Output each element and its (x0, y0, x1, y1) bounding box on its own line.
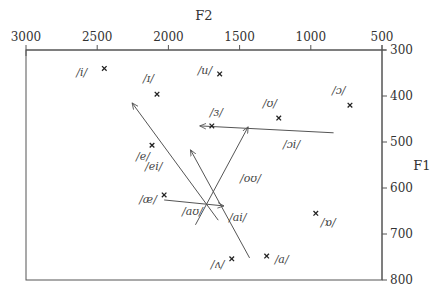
y-tick-label: 300 (390, 43, 413, 57)
vowel-label: /ɒ/ (320, 216, 337, 229)
diphthong-trajectories: /ei//ai//aʊ//oʊ//ɔi/ (132, 103, 333, 258)
y-tick-label: 700 (390, 227, 413, 241)
vowel-label: /i/ (75, 66, 88, 79)
x-tick-label: 1000 (296, 30, 327, 44)
x-tick-label: 2500 (82, 30, 113, 44)
y-tick-label: 400 (390, 89, 413, 103)
trajectory-arrow (200, 126, 334, 133)
y-tick-label: 500 (390, 135, 413, 149)
vowel-label: /a/ (274, 253, 290, 266)
vowel-u: /u/ (197, 64, 222, 77)
vowel-label: /ʌ/ (210, 258, 226, 271)
x-tick-label: 1500 (224, 30, 255, 44)
vowel-i: /i/ (75, 66, 106, 79)
vowel-ɜ: /ɜ/ (209, 106, 224, 128)
x-tick-label: 3000 (11, 30, 42, 44)
vowel-label: /ɜ/ (209, 106, 224, 119)
vowel-ɒ: /ɒ/ (313, 211, 336, 229)
x-axis-title: F2 (195, 8, 212, 23)
x-axis-f2: 30002500200015001000500 (11, 30, 394, 56)
y-axis-f1: 300400500600700800 (382, 43, 413, 287)
vowel-label: /ɔ/ (331, 84, 347, 97)
vowel-label: /ɪ/ (142, 72, 155, 85)
vowel-æ: /æ/ (138, 193, 166, 206)
x-tick-label: 500 (371, 30, 394, 44)
plot-frame (26, 50, 382, 280)
diphthong-label: /ai/ (228, 211, 248, 224)
vowel-ɔ: /ɔ/ (331, 84, 352, 107)
vowel-ɪ: /ɪ/ (142, 72, 159, 96)
y-tick-label: 800 (390, 273, 413, 287)
vowel-a: /a/ (264, 253, 290, 266)
diphthong-label: /oʊ/ (239, 172, 262, 185)
vowel-label: /u/ (197, 64, 214, 77)
vowel-label: /æ/ (138, 193, 158, 206)
vowel-ʌ: /ʌ/ (210, 257, 234, 271)
y-axis-title: F1 (413, 158, 430, 173)
diphthong-ɔi: /ɔi/ (200, 126, 334, 151)
monophthong-points: /i//ɪ//u//ʊ//ɔ//ɜ//e//æ//ɒ//ʌ//a/ (75, 64, 352, 271)
vowel-label: /e/ (135, 150, 151, 163)
vowel-ʊ: /ʊ/ (262, 97, 281, 120)
x-tick-label: 2000 (153, 30, 184, 44)
diphthong-label: /ɔi/ (282, 138, 301, 151)
y-tick-label: 600 (390, 181, 413, 195)
vowel-label: /ʊ/ (262, 97, 279, 110)
vowel-formant-chart: 30002500200015001000500 3004005006007008… (0, 0, 447, 300)
